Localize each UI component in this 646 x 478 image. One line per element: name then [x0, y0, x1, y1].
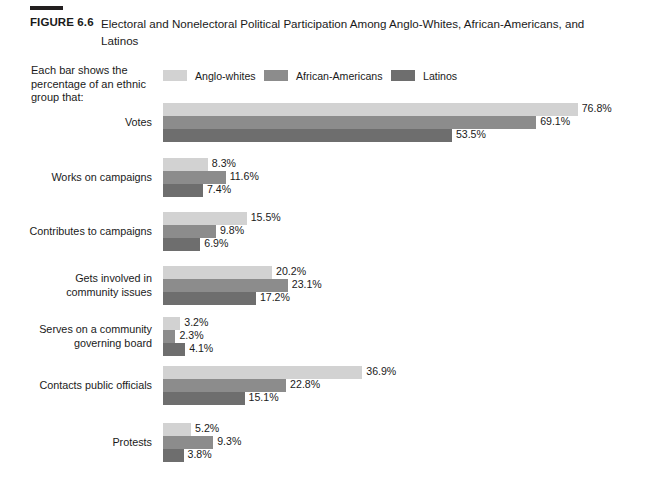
bar-value-label: 5.2%	[191, 422, 219, 435]
category-label-line: Gets involved in	[0, 272, 152, 286]
bar-value-label: 20.2%	[272, 265, 306, 278]
category-label-line: Works on campaigns	[0, 171, 152, 185]
bar-anglo-whites	[163, 266, 272, 279]
bar-value-label: 53.5%	[452, 128, 486, 141]
bar-value-label: 76.8%	[578, 102, 612, 115]
category-label: Contacts public officials	[0, 379, 152, 393]
bar-row: 3.8%	[163, 449, 646, 462]
category-label: Votes	[0, 116, 152, 130]
bar-group: Serves on a communitygoverning board3.2%…	[0, 317, 646, 356]
bar-row: 15.1%	[163, 392, 646, 405]
bar-group: Contacts public officials36.9%22.8%15.1%	[0, 366, 646, 405]
bar-group: Works on campaigns8.3%11.6%7.4%	[0, 158, 646, 197]
category-label: Contributes to campaigns	[0, 225, 152, 239]
bar-anglo-whites	[163, 103, 578, 116]
category-label: Serves on a communitygoverning board	[0, 323, 152, 350]
bar-group: Contributes to campaigns15.5%9.8%6.9%	[0, 212, 646, 251]
bar-value-label: 17.2%	[256, 291, 290, 304]
bar-row: 4.1%	[163, 343, 646, 356]
bar-latinos	[163, 343, 185, 356]
category-label-line: community issues	[0, 286, 152, 300]
bar-value-label: 11.6%	[226, 170, 259, 183]
chart-plot-area: Votes76.8%69.1%53.5%Works on campaigns8.…	[0, 0, 646, 478]
bar-row: 6.9%	[163, 238, 646, 251]
bar-value-label: 9.8%	[216, 224, 244, 237]
bar-value-label: 7.4%	[203, 183, 231, 196]
category-label: Protests	[0, 436, 152, 450]
bar-value-label: 22.8%	[286, 378, 320, 391]
bar-value-label: 15.5%	[247, 211, 281, 224]
bar-anglo-whites	[163, 158, 208, 171]
bar-group: Votes76.8%69.1%53.5%	[0, 103, 646, 142]
bar-value-label: 3.2%	[180, 316, 208, 329]
category-label-line: Serves on a community	[0, 323, 152, 337]
bar-row: 17.2%	[163, 292, 646, 305]
bar-latinos	[163, 129, 452, 142]
bar-row: 7.4%	[163, 184, 646, 197]
bar-african-americans	[163, 330, 175, 343]
bar-latinos	[163, 292, 256, 305]
bar-value-label: 6.9%	[200, 237, 228, 250]
bar-value-label: 4.1%	[185, 342, 213, 355]
bar-latinos	[163, 238, 200, 251]
bar-row: 20.2%	[163, 266, 646, 279]
bar-row: 9.3%	[163, 436, 646, 449]
category-label-line: Contacts public officials	[0, 379, 152, 393]
category-label: Gets involved incommunity issues	[0, 272, 152, 299]
bar-value-label: 15.1%	[245, 391, 279, 404]
category-label-line: governing board	[0, 337, 152, 351]
bar-anglo-whites	[163, 366, 362, 379]
bar-row: 9.8%	[163, 225, 646, 238]
bar-latinos	[163, 392, 245, 405]
bar-row: 22.8%	[163, 379, 646, 392]
bar-value-label: 9.3%	[213, 435, 241, 448]
bar-value-label: 69.1%	[536, 115, 570, 128]
bar-row: 36.9%	[163, 366, 646, 379]
bar-group: Protests5.2%9.3%3.8%	[0, 423, 646, 462]
category-label-line: Contributes to campaigns	[0, 225, 152, 239]
category-label: Works on campaigns	[0, 171, 152, 185]
bar-value-label: 23.1%	[288, 278, 322, 291]
bar-value-label: 2.3%	[175, 329, 203, 342]
bar-anglo-whites	[163, 423, 191, 436]
bar-latinos	[163, 184, 203, 197]
bar-group: Gets involved incommunity issues20.2%23.…	[0, 266, 646, 305]
bar-row: 23.1%	[163, 279, 646, 292]
bar-latinos	[163, 449, 184, 462]
category-label-line: Protests	[0, 436, 152, 450]
bar-value-label: 36.9%	[362, 365, 396, 378]
bar-row: 2.3%	[163, 330, 646, 343]
bar-row: 3.2%	[163, 317, 646, 330]
bar-value-label: 8.3%	[208, 157, 236, 170]
bar-row: 11.6%	[163, 171, 646, 184]
bar-row: 69.1%	[163, 116, 646, 129]
category-label-line: Votes	[0, 116, 152, 130]
bar-value-label: 3.8%	[184, 448, 212, 461]
bar-row: 76.8%	[163, 103, 646, 116]
bar-row: 53.5%	[163, 129, 646, 142]
